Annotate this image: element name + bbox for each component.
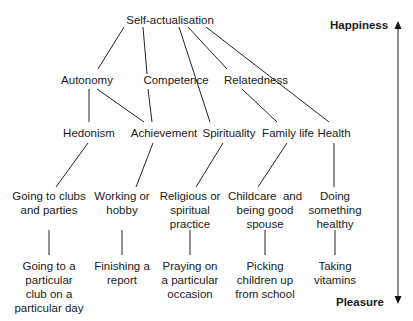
node-achievement: Achievement xyxy=(131,126,197,140)
happiness-label: Happiness xyxy=(330,19,388,31)
node-label-line: children up xyxy=(235,273,294,287)
node-label-line: particular day xyxy=(14,301,83,315)
node-label-line: Going to a xyxy=(14,259,83,273)
node-picking-children: Picking children up from school xyxy=(235,259,294,301)
node-label-line: Childcare and xyxy=(228,189,302,203)
edge-competence-achievement xyxy=(148,89,152,122)
node-label-line: occasion xyxy=(162,287,219,301)
node-health: Health xyxy=(317,126,350,140)
node-label-line: a particular xyxy=(162,273,219,287)
node-clubs-and-parties: Going to clubs and parties xyxy=(12,189,86,217)
arrow-up-icon xyxy=(395,21,402,29)
node-label: Competence xyxy=(143,74,208,86)
node-label-line: spiritual xyxy=(160,203,221,217)
edge-root-autonomy xyxy=(98,27,124,69)
node-religious-practice: Religious or spiritual practice xyxy=(160,189,221,231)
node-label: Spirituality xyxy=(202,127,255,139)
pleasure-label: Pleasure xyxy=(336,296,384,308)
node-label-line: particular xyxy=(14,273,83,287)
node-label: Hedonism xyxy=(63,127,115,139)
node-label-line: Picking xyxy=(235,259,294,273)
node-label: Autonomy xyxy=(61,74,113,86)
node-taking-vitamins: Taking vitamins xyxy=(314,259,356,287)
node-label: Health xyxy=(317,127,350,139)
node-childcare: Childcare and being good spouse xyxy=(228,189,302,231)
node-label-line: club on a xyxy=(14,287,83,301)
node-relatedness: Relatedness xyxy=(224,73,288,87)
node-label-line: Religious or xyxy=(160,189,221,203)
arrow-down-icon xyxy=(395,296,402,304)
edge-hedonism-clubs xyxy=(56,143,88,187)
node-competence: Competence xyxy=(143,73,208,87)
node-autonomy: Autonomy xyxy=(61,73,113,87)
node-label-line: report xyxy=(94,273,150,287)
edge-root-competence xyxy=(143,27,147,74)
node-label-line: vitamins xyxy=(314,273,356,287)
node-label: Achievement xyxy=(131,127,197,139)
node-hedonism: Hedonism xyxy=(63,126,115,140)
edge-spirituality-religious xyxy=(196,143,223,187)
node-label-line: and parties xyxy=(12,203,86,217)
edge-familylife-childcare xyxy=(258,143,287,187)
node-finishing-report: Finishing a report xyxy=(94,259,150,287)
edge-root-relatedness xyxy=(188,27,227,69)
node-label-line: Going to clubs xyxy=(12,189,86,203)
node-label-line: being good xyxy=(228,203,302,217)
node-particular-club: Going to a particular club on a particul… xyxy=(14,259,83,315)
node-label-line: Working or xyxy=(94,189,149,203)
node-working-or-hobby: Working or hobby xyxy=(94,189,149,217)
edge-achievement-working xyxy=(136,143,153,187)
node-praying: Praying on a particular occasion xyxy=(162,259,219,301)
node-label-line: spouse xyxy=(228,217,302,231)
node-label: Family life xyxy=(262,127,314,139)
node-label-line: Praying on xyxy=(162,259,219,273)
node-label: Relatedness xyxy=(224,74,288,86)
node-label: Self-actualisation xyxy=(126,14,214,26)
node-label-line: Doing xyxy=(308,189,361,203)
node-spirituality: Spirituality xyxy=(202,126,255,140)
edge-autonomy-achievement xyxy=(97,89,144,122)
node-label-line: Finishing a xyxy=(94,259,150,273)
edge-relatedness-familylife xyxy=(242,89,277,122)
node-label-line: practice xyxy=(160,217,221,231)
node-self-actualisation: Self-actualisation xyxy=(126,13,214,27)
node-label-line: from school xyxy=(235,287,294,301)
node-label-line: Taking xyxy=(314,259,356,273)
node-doing-healthy: Doing something healthy xyxy=(308,189,361,231)
node-label-line: healthy xyxy=(308,217,361,231)
node-label-line: hobby xyxy=(94,203,149,217)
node-label-line: something xyxy=(308,203,361,217)
node-family-life: Family life xyxy=(262,126,314,140)
